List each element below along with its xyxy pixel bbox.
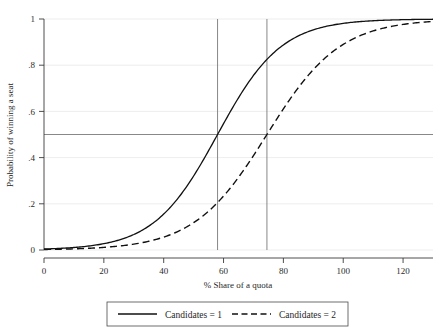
y-tick-label-1: .2 (28, 199, 35, 209)
x-tick-label-2: 40 (159, 266, 169, 276)
x-tick-label-1: 20 (99, 266, 109, 276)
y-axis-title: Probability of winning a seat (5, 83, 15, 187)
y-tick-label-4: .8 (28, 60, 35, 70)
chart-figure: 020406080100120 0.2.4.6.81 % Share of a … (0, 0, 438, 331)
x-tick-label-0: 0 (42, 266, 47, 276)
x-tick-label-4: 80 (279, 266, 289, 276)
y-tick-label-2: .4 (28, 153, 35, 163)
y-tick-label-5: 1 (31, 14, 36, 24)
x-tick-label-3: 60 (219, 266, 229, 276)
legend-label-candidates-2: Candidates = 2 (279, 310, 336, 320)
x-tick-label-6: 120 (396, 266, 410, 276)
x-axis-title: % Share of a quota (204, 280, 272, 290)
x-tick-label-5: 100 (336, 266, 350, 276)
y-tick-label-3: .6 (28, 107, 35, 117)
y-tick-label-0: 0 (31, 245, 36, 255)
legend-label-candidates-1: Candidates = 1 (165, 310, 222, 320)
probability-logistic-chart: 020406080100120 0.2.4.6.81 % Share of a … (0, 0, 438, 331)
chart-legend: Candidates = 1 Candidates = 2 (107, 302, 348, 326)
